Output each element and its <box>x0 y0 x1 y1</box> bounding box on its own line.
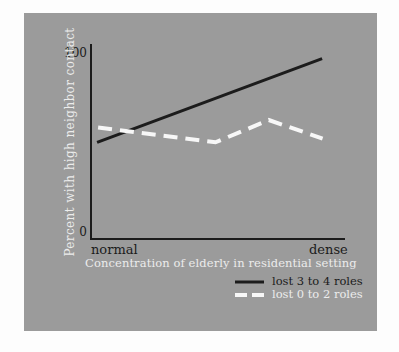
x-tick-normal: normal <box>91 242 138 257</box>
y-axis-title: Percent with high neighbor contact <box>63 27 77 256</box>
dashed-line-swatch-icon <box>235 292 264 298</box>
solid-line-swatch-icon <box>235 279 264 285</box>
series-lines <box>97 59 323 143</box>
figure-card: 100 0 normal dense Concentration of elde… <box>24 13 377 331</box>
series-line-dashed <box>98 120 323 142</box>
legend: lost 3 to 4 roles lost 0 to 2 roles <box>235 275 363 301</box>
legend-label-dashed: lost 0 to 2 roles <box>272 288 363 301</box>
x-tick-dense: dense <box>309 242 348 257</box>
legend-row-dashed: lost 0 to 2 roles <box>235 288 363 301</box>
x-axis-title: Concentration of elderly in residential … <box>85 256 357 270</box>
